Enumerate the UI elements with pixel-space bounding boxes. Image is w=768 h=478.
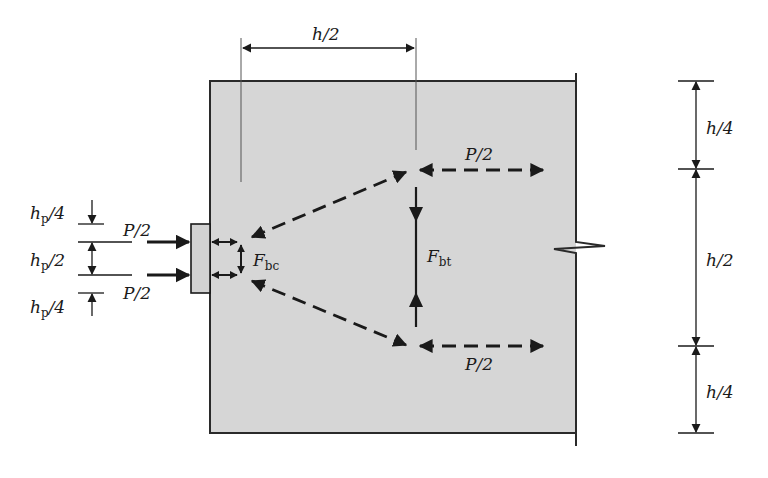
load-upper-label: P/2 [122,220,151,240]
applied-loads: P/2 P/2 [122,220,189,303]
bearing-plate [191,224,210,293]
left-dim-middle-label: hp/2 [30,250,65,273]
right-dim-middle-label: h/2 [706,250,734,270]
right-dim-top-label: h/4 [706,118,734,138]
top-dimension-label: h/2 [312,24,340,44]
right-dimension: h/4 h/2 h/4 [678,81,734,433]
load-lower-label: P/2 [122,283,151,303]
tie-upper-label: P/2 [464,144,493,164]
left-dim-top-label: hp/4 [30,203,65,226]
left-dim-bottom-label: hp/4 [30,297,65,320]
anchorage-zone-diagram: h/2 h/4 h/2 h/4 hp/4 hp/2 hp/4 [0,0,768,478]
right-dim-bottom-label: h/4 [706,382,734,402]
tie-lower-label: P/2 [464,354,493,374]
left-dimension: hp/4 hp/2 hp/4 [30,200,132,320]
